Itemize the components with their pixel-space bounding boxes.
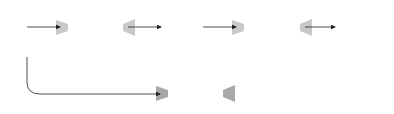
- arrow-input-to-composite: [27, 57, 160, 94]
- connectors: I've got a run of several dozen identica…: [0, 0, 394, 114]
- funnel-shapes: [56, 19, 312, 36]
